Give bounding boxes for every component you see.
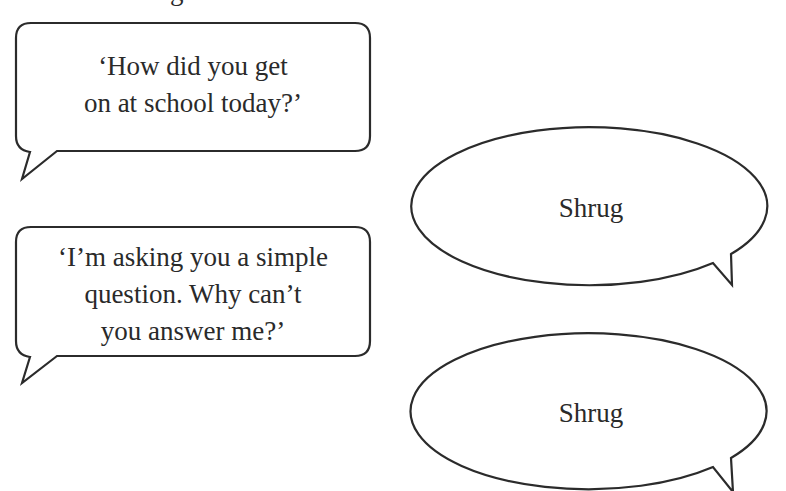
speech-bubble-4-text: Shrug: [413, 395, 769, 432]
bubble-line: you answer me?’: [16, 313, 370, 350]
speech-bubble-2-text: Shrug: [413, 190, 769, 227]
speech-bubble-1-text: ‘How did you get on at school today?’: [16, 48, 370, 122]
speech-bubble-3-text: ‘I’m asking you a simple question. Why c…: [16, 239, 370, 350]
bubble-line: ‘I’m asking you a simple: [16, 239, 370, 276]
bubble-line: question. Why can’t: [16, 276, 370, 313]
bubble-line: Shrug: [413, 190, 769, 227]
bubble-line: on at school today?’: [16, 85, 370, 122]
bubble-line: ‘How did you get: [16, 48, 370, 85]
bubble-line: Shrug: [413, 395, 769, 432]
clipped-heading-fragment: g: [170, 0, 184, 5]
